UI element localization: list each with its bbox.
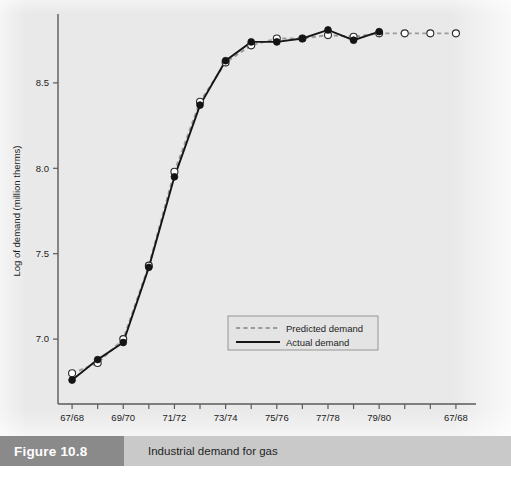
figure-caption-text: Industrial demand for gas: [148, 436, 278, 466]
x-tick-label: 79/80: [367, 412, 391, 423]
x-tick-label: 73/74: [214, 412, 238, 423]
legend-label-actual: Actual demand: [286, 337, 349, 348]
data-point-actual: [69, 377, 76, 384]
data-point-predicted: [452, 30, 459, 37]
data-point-actual: [325, 27, 332, 34]
x-tick-label: 67/68: [444, 412, 468, 423]
x-tick-label: 71/72: [163, 412, 187, 423]
data-point-actual: [273, 39, 280, 46]
figure-10-8: 7.07.58.08.5Log of demand (million therm…: [0, 0, 511, 488]
y-tick-label: 7.0: [36, 333, 49, 344]
y-axis-title: Log of demand (million therms): [11, 146, 22, 277]
line-chart: 7.07.58.08.5Log of demand (million therm…: [0, 0, 511, 436]
y-tick-label: 8.5: [36, 77, 49, 88]
y-tick-label: 8.0: [36, 163, 49, 174]
data-point-actual: [197, 102, 204, 109]
data-point-predicted: [427, 30, 434, 37]
source-strip: [0, 466, 511, 488]
figure-number-tag: Figure 10.8: [0, 436, 124, 466]
data-point-actual: [145, 264, 152, 271]
data-point-actual: [376, 28, 383, 35]
x-tick-label: 75/76: [265, 412, 289, 423]
data-point-actual: [94, 356, 101, 363]
plot-area: 7.07.58.08.5Log of demand (million therm…: [0, 0, 511, 436]
data-point-actual: [299, 35, 306, 42]
data-point-actual: [248, 39, 255, 46]
data-point-actual: [222, 57, 229, 64]
data-point-actual: [120, 339, 127, 346]
x-tick-label: 69/70: [111, 412, 135, 423]
legend-label-predicted: Predicted demand: [286, 323, 363, 334]
x-tick-label: 67/68: [60, 412, 84, 423]
figure-caption-bar: Figure 10.8 Industrial demand for gas: [0, 436, 511, 466]
x-tick-label: 77/78: [316, 412, 340, 423]
data-point-predicted: [401, 30, 408, 37]
data-point-predicted: [69, 370, 76, 377]
data-point-actual: [350, 37, 357, 44]
data-point-actual: [171, 173, 178, 180]
y-tick-label: 7.5: [36, 248, 49, 259]
